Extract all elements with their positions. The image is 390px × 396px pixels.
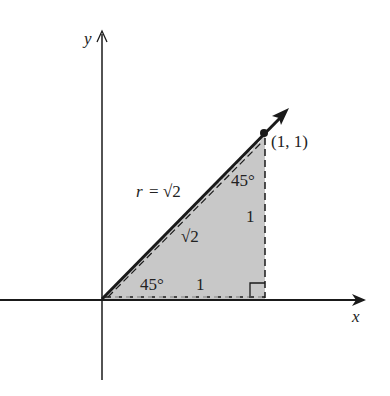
horizontal-side-label: 1: [196, 275, 205, 294]
bottom-angle-label: 45°: [140, 275, 164, 294]
hypotenuse-label: √2: [181, 227, 199, 246]
polar-diagram: y x (1, 1) r = √2 45° 1 √2 45° 1: [0, 0, 390, 396]
r-equals: =: [149, 182, 159, 201]
vertical-side-label: 1: [246, 207, 255, 226]
r-symbol: r: [136, 182, 143, 201]
r-value: √2: [163, 182, 181, 201]
x-axis-label: x: [351, 307, 360, 326]
y-axis-label: y: [82, 29, 92, 48]
point-dot: [260, 129, 268, 137]
point-label: (1, 1): [271, 132, 308, 151]
top-angle-label: 45°: [231, 171, 255, 190]
